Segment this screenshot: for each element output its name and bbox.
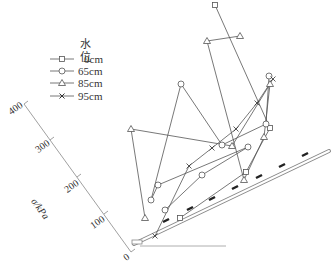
x-marker-icon bbox=[234, 127, 239, 132]
series-line-95cm bbox=[155, 79, 273, 236]
triangle-marker-icon bbox=[142, 215, 149, 221]
circle-marker-icon bbox=[50, 66, 74, 76]
square-marker-icon bbox=[213, 3, 218, 8]
x-marker-icon bbox=[50, 91, 74, 101]
square-marker-icon bbox=[244, 170, 249, 175]
legend-label: 95cm bbox=[78, 90, 102, 103]
x-marker-icon bbox=[271, 77, 276, 82]
circle-marker-icon bbox=[155, 182, 161, 188]
legend-label: 85cm bbox=[78, 77, 102, 90]
slope-anchors bbox=[163, 153, 308, 222]
triangle-marker-icon bbox=[241, 177, 248, 183]
stress-axis bbox=[24, 101, 135, 252]
triangle-marker-icon bbox=[128, 126, 135, 132]
circle-marker-icon bbox=[178, 81, 184, 87]
circle-marker-icon bbox=[245, 144, 251, 150]
square-marker-icon bbox=[178, 216, 183, 221]
slope-surface bbox=[132, 151, 329, 244]
circle-marker-icon bbox=[162, 207, 168, 213]
chart-canvas bbox=[0, 0, 335, 265]
circle-marker-icon bbox=[266, 73, 272, 79]
circle-marker-icon bbox=[148, 197, 154, 203]
circle-marker-icon bbox=[219, 142, 225, 148]
triangle-marker-icon bbox=[237, 33, 244, 39]
circle-marker-icon bbox=[199, 172, 205, 178]
x-marker-icon bbox=[187, 164, 192, 169]
square-marker-icon bbox=[50, 54, 74, 64]
x-marker-icon bbox=[210, 146, 215, 151]
triangle-marker-icon bbox=[50, 78, 74, 88]
triangle-marker-icon bbox=[267, 81, 274, 87]
circle-marker-icon bbox=[263, 121, 269, 127]
